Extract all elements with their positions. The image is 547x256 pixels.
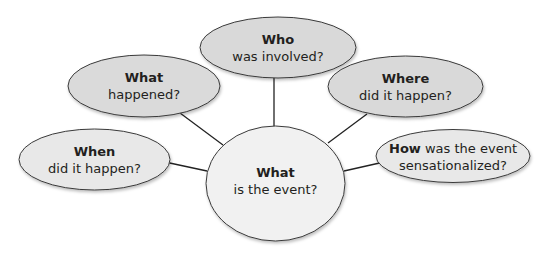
node-when: When did it happen?	[19, 129, 170, 190]
node-how-heading: How	[389, 141, 421, 156]
node-center-heading: What	[256, 164, 295, 181]
node-center-text: is the event?	[234, 181, 318, 198]
node-how: How was the event sensationalized?	[376, 130, 530, 183]
node-how-inline-text: was the event	[421, 141, 517, 156]
node-where-heading: Where	[382, 70, 430, 87]
node-how-text: sensationalized?	[399, 157, 507, 174]
node-where: Where did it happen?	[328, 56, 483, 117]
node-where-text: did it happen?	[359, 87, 452, 104]
node-who-text: was involved?	[232, 48, 323, 65]
node-how-first-line: How was the event	[389, 140, 517, 157]
node-what-happened: What happened?	[68, 55, 220, 117]
node-when-text: did it happen?	[48, 160, 141, 177]
node-center: What is the event?	[206, 126, 345, 241]
connector-when	[165, 162, 207, 171]
node-what-happened-text: happened?	[108, 86, 180, 103]
node-when-heading: When	[74, 143, 116, 160]
node-who-heading: Who	[262, 31, 295, 48]
node-what-happened-heading: What	[125, 69, 164, 86]
event-question-web: Who was involved? What happened? Where d…	[0, 0, 547, 256]
